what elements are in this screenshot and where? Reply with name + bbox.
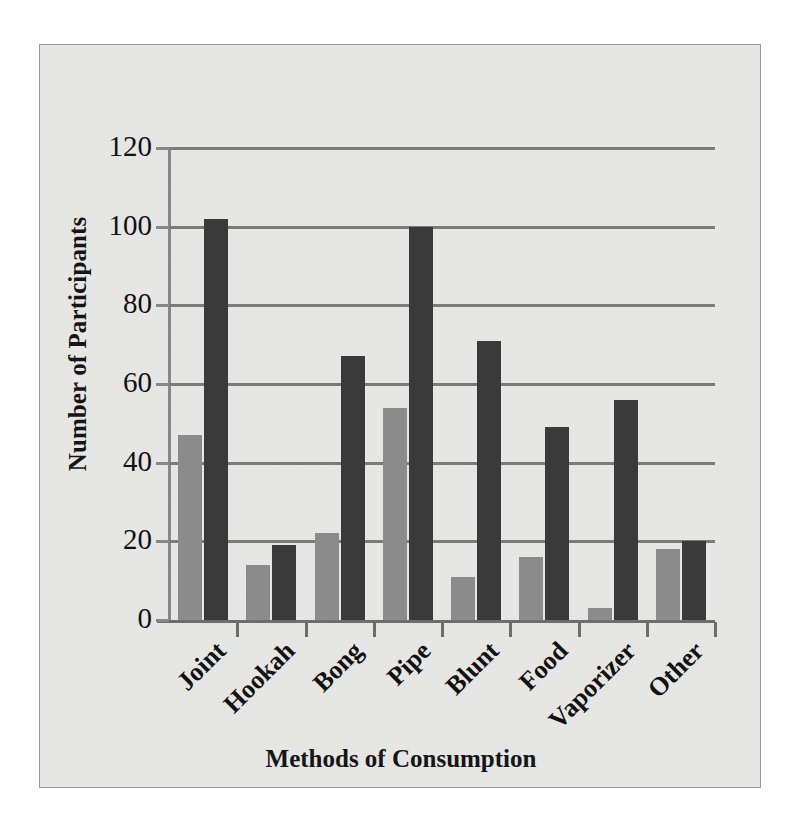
y-tick-mark: [156, 540, 169, 543]
y-tick-label: 20: [123, 524, 152, 557]
bar-group: [246, 148, 296, 620]
bar-pipe-series-2: [409, 227, 433, 620]
x-category-label-text: Joint: [171, 636, 232, 697]
bar-pipe-series-1: [383, 408, 407, 620]
y-tick-label: 120: [109, 130, 153, 163]
bar-group: [315, 148, 365, 620]
x-category-label-text: Bong: [307, 636, 369, 698]
bar-group: [383, 148, 433, 620]
x-category-label-text: Pipe: [381, 636, 437, 692]
y-tick-label: 40: [123, 445, 152, 478]
bar-joint-series-1: [178, 435, 202, 620]
bar-food-series-2: [545, 427, 569, 620]
bar-vaporizer-series-2: [614, 400, 638, 620]
y-tick-mark: [156, 304, 169, 307]
y-tick-label: 60: [123, 366, 152, 399]
bar-group: [519, 148, 569, 620]
x-category-label-text: Food: [513, 636, 574, 697]
x-category-label-text: Blunt: [440, 636, 505, 701]
bar-group: [588, 148, 638, 620]
plot-area: 020406080100120: [169, 148, 715, 620]
bar-hookah-series-2: [272, 545, 296, 620]
bar-group: [178, 148, 228, 620]
y-tick-mark: [156, 462, 169, 465]
bar-group: [451, 148, 501, 620]
chart-figure-frame: Number of Participants Methods of Consum…: [39, 44, 761, 788]
y-tick-mark: [156, 383, 169, 386]
y-tick-label: 80: [123, 288, 152, 321]
y-tick-mark: [156, 226, 169, 229]
y-axis-title: Number of Participants: [64, 184, 92, 504]
y-tick-label: 100: [109, 209, 153, 242]
y-tick-mark: [156, 619, 169, 622]
bar-blunt-series-2: [477, 341, 501, 620]
y-tick-mark: [156, 147, 169, 150]
bar-group: [656, 148, 706, 620]
figure-root: Number of Participants Methods of Consum…: [0, 0, 802, 829]
bar-joint-series-2: [204, 219, 228, 620]
y-tick-label: 0: [138, 602, 153, 635]
x-axis-title: Methods of Consumption: [40, 745, 762, 773]
